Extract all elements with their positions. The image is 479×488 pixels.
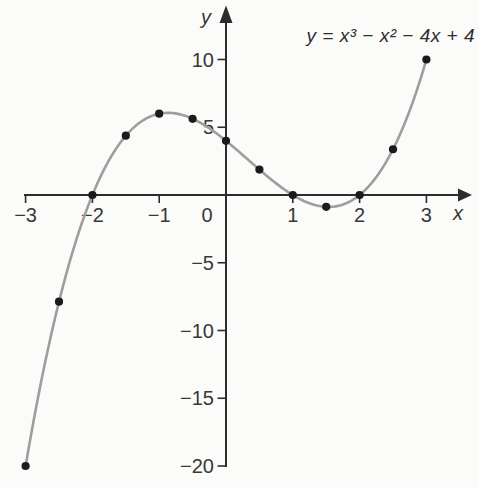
data-point (88, 191, 96, 199)
x-tick-label: 1 (287, 204, 298, 226)
cubic-function-graph: −3−2−11230105−5−10−15−20yx (0, 0, 479, 488)
y-tick-label: −20 (180, 455, 214, 477)
data-point (55, 298, 63, 306)
y-axis-arrow-icon (220, 6, 233, 24)
y-tick-label: −5 (191, 252, 214, 274)
x-axis-arrow-icon (458, 189, 472, 202)
y-tick-label: 10 (192, 49, 214, 71)
data-point (255, 165, 263, 173)
x-tick-label: −1 (148, 204, 171, 226)
x-tick-label: 2 (354, 204, 365, 226)
x-axis-label: x (452, 202, 464, 224)
data-point (189, 115, 197, 123)
x-tick-label: 3 (421, 204, 432, 226)
y-axis-label: y (199, 6, 212, 28)
data-point (289, 191, 297, 199)
y-tick-label: −10 (180, 320, 214, 342)
data-point (322, 203, 330, 211)
data-point (422, 55, 430, 63)
data-point (155, 110, 163, 118)
equation-label: y = x³ − x² − 4x + 4 (307, 25, 475, 47)
x-tick-label: −3 (14, 204, 37, 226)
data-point (389, 145, 397, 153)
data-point (222, 137, 230, 145)
data-point (122, 132, 130, 140)
data-point (356, 191, 364, 199)
data-point (22, 462, 30, 470)
y-tick-label: −15 (180, 387, 214, 409)
origin-tick-label: 0 (201, 204, 212, 226)
graph-page: −3−2−11230105−5−10−15−20yx y = x³ − x² −… (0, 0, 479, 488)
